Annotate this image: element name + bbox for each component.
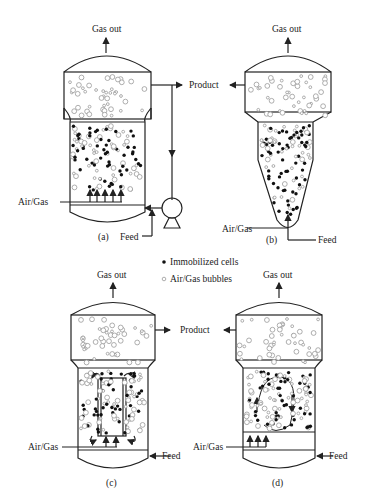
- caption-d: (d): [272, 478, 283, 489]
- bubble-marker-icon: [162, 277, 166, 281]
- gas-out-label-b: Gas out: [272, 24, 302, 34]
- gas-out-label-c: Gas out: [97, 270, 127, 280]
- bubbles-top-c: [79, 317, 153, 365]
- feed-label-a: Feed: [120, 232, 139, 242]
- cells-bed-d: [244, 370, 313, 430]
- feed-label-c: Feed: [162, 451, 181, 461]
- bubbles-top-b: [249, 75, 328, 118]
- air-gas-label-a: Air/Gas: [18, 197, 48, 207]
- legend-cells-label: Immobilized cells: [170, 257, 239, 267]
- caption-c: (c): [106, 478, 117, 489]
- air-gas-label-c: Air/Gas: [28, 442, 58, 452]
- feed-label-b: Feed: [318, 235, 337, 245]
- air-gas-label-d: Air/Gas: [193, 442, 223, 452]
- cell-marker-icon: [162, 260, 166, 264]
- feed-label-d: Feed: [329, 451, 348, 461]
- bioreactor-diagram: Gas out Product Air/Gas Feed (a) Gas out…: [0, 0, 365, 504]
- bubbles-top-a: [69, 75, 147, 118]
- cells-bed-b: [260, 124, 312, 216]
- caption-b: (b): [266, 235, 277, 246]
- panel-b: [230, 38, 331, 240]
- gas-out-label-d: Gas out: [263, 270, 293, 280]
- legend-bubbles-label: Air/Gas bubbles: [170, 274, 232, 284]
- legend: Immobilized cells Air/Gas bubbles: [162, 257, 238, 284]
- cells-bed-a: [71, 124, 143, 192]
- cells-bed-c: [79, 370, 146, 435]
- product-label-c: Product: [180, 325, 210, 335]
- bubbles-top-d: [237, 318, 320, 365]
- air-gas-label-b: Air/Gas: [222, 224, 252, 234]
- gas-out-label-a: Gas out: [92, 24, 122, 34]
- panel-c: [62, 283, 170, 468]
- caption-a: (a): [98, 232, 109, 243]
- product-label-a: Product: [189, 80, 219, 90]
